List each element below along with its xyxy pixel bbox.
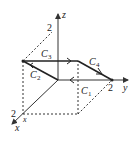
- curve-label-c4: C 4: [89, 56, 100, 69]
- y-axis-label: y: [122, 82, 128, 93]
- x-tick-label: 2: [11, 108, 16, 119]
- svg-text:C: C: [41, 48, 48, 59]
- c2-segment: [23, 61, 58, 80]
- x-axis: [12, 80, 58, 124]
- svg-text:1: 1: [88, 90, 92, 98]
- z-tick-label: 2: [47, 22, 52, 33]
- x-point-label: x: [22, 115, 27, 124]
- svg-text:C: C: [30, 69, 37, 80]
- svg-text:C: C: [89, 56, 96, 67]
- svg-text:2: 2: [37, 74, 41, 82]
- z-axis-label: z: [61, 9, 66, 20]
- curve-label-c1: C 1: [81, 85, 92, 98]
- curve-label-c3: C 3: [41, 48, 52, 61]
- y-tick-label: 2: [108, 82, 113, 93]
- svg-text:4: 4: [96, 61, 100, 69]
- diagram-canvas: z 2 y 2 x 2 x C 3 C 4 C 2 C 1: [0, 0, 134, 143]
- curve-label-c2: C 2: [30, 69, 41, 82]
- point-corner: [22, 60, 25, 63]
- svg-text:3: 3: [48, 53, 52, 61]
- svg-text:C: C: [81, 85, 88, 96]
- x-axis-label: x: [14, 122, 20, 133]
